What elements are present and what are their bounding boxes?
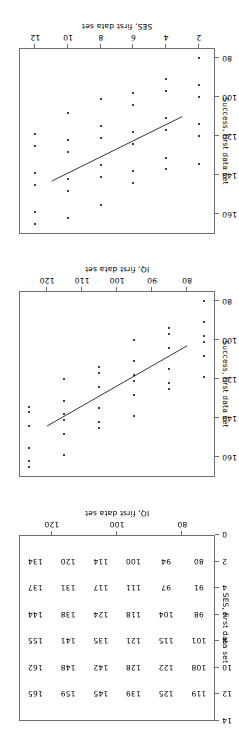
y-axis-tick-label: 14 <box>222 717 232 726</box>
scatter-point <box>198 84 200 86</box>
plot-panel-success-value-grid: 8094100114120134919711111713113798104118… <box>0 487 239 730</box>
grid-value-cell: 155 <box>28 637 43 646</box>
scatter-point <box>67 151 69 153</box>
grid-value-cell: 148 <box>61 663 76 672</box>
grid-value-cell: 145 <box>93 690 108 699</box>
x-axis-tick-label: 100 <box>110 276 125 285</box>
x-axis-tick-label: 2 <box>196 33 201 42</box>
scatter-point <box>67 139 69 141</box>
scatter-point <box>198 163 200 165</box>
y-axis-tick <box>215 339 219 340</box>
scatter-point <box>198 96 200 98</box>
y-axis-tick <box>215 213 219 214</box>
x-axis-tick <box>67 44 68 48</box>
grid-value-cell: 144 <box>28 610 43 619</box>
iq-success-x-axis-label: IQ, first data set <box>85 265 149 274</box>
y-axis-tick-label: 12 <box>222 690 232 699</box>
grid-value-cell: 121 <box>126 637 141 646</box>
x-axis-tick-label: 110 <box>75 276 90 285</box>
y-axis-tick <box>215 587 219 588</box>
value-grid-y-axis-label: SES, first data set <box>221 593 230 664</box>
grid-value-cell: 135 <box>93 637 108 646</box>
ses-success-rotation-wrapper: 2468101280100120140160 SES, first data s… <box>0 0 239 243</box>
x-axis-tick <box>116 287 117 291</box>
grid-value-cell: 104 <box>159 610 174 619</box>
scatter-point <box>100 98 102 100</box>
grid-value-cell: 118 <box>126 610 141 619</box>
y-axis-tick <box>215 96 219 97</box>
grid-value-cell: 97 <box>161 584 171 593</box>
x-axis-tick-label: 80 <box>182 276 192 285</box>
grid-value-cell: 125 <box>159 690 174 699</box>
x-axis-tick-label: 4 <box>164 33 169 42</box>
grid-value-cell: 142 <box>93 663 108 672</box>
y-axis-tick <box>215 417 219 418</box>
value-grid-x-axis-label: IQ, first data set <box>85 509 149 518</box>
ses-success-y-axis-label: Success, first data set <box>221 97 230 184</box>
grid-value-cell: 122 <box>159 663 174 672</box>
grid-value-cell: 91 <box>194 584 204 593</box>
grid-value-cell: 115 <box>159 637 174 646</box>
iq-success-rotation-wrapper: 809010011012080100120140160 IQ, first da… <box>0 243 239 486</box>
grid-value-cell: 117 <box>93 584 108 593</box>
grid-value-cell: 141 <box>61 637 76 646</box>
scatter-point <box>100 176 102 178</box>
grid-value-cell: 94 <box>161 557 171 566</box>
x-axis-tick <box>181 531 182 535</box>
x-axis-tick <box>165 44 166 48</box>
y-axis-tick <box>215 693 219 694</box>
x-axis-tick-label: 8 <box>98 33 103 42</box>
grid-value-cell: 137 <box>28 584 43 593</box>
x-axis-tick <box>151 287 152 291</box>
grid-value-cell: 114 <box>93 557 108 566</box>
y-axis-tick <box>215 561 219 562</box>
grid-value-cell: 80 <box>194 557 204 566</box>
scatter-point <box>100 204 102 206</box>
x-axis-tick-label: 10 <box>63 33 73 42</box>
plot-panel-iq-success: 809010011012080100120140160 IQ, first da… <box>0 243 239 486</box>
x-axis-tick-label: 80 <box>177 520 187 529</box>
grid-value-cell: 108 <box>191 663 206 672</box>
scatter-point <box>198 135 200 137</box>
y-axis-tick <box>215 456 219 457</box>
x-axis-tick-label: 12 <box>30 33 40 42</box>
grid-value-cell: 101 <box>191 637 206 646</box>
grid-value-cell: 119 <box>191 690 206 699</box>
scatter-point <box>100 137 102 139</box>
x-axis-tick <box>100 44 101 48</box>
x-axis-tick-label: 90 <box>147 276 157 285</box>
y-axis-tick <box>215 667 219 668</box>
grid-value-cell: 134 <box>28 557 43 566</box>
x-axis-tick <box>81 287 82 291</box>
x-axis-tick-label: 6 <box>131 33 136 42</box>
y-axis-tick-label: 160 <box>222 210 237 219</box>
grid-value-cell: 165 <box>28 690 43 699</box>
x-axis-tick-label: 100 <box>110 520 125 529</box>
y-axis-tick-label: 4 <box>222 584 227 593</box>
y-axis-tick-label: 160 <box>222 453 237 462</box>
x-axis-tick <box>198 44 199 48</box>
scatter-point <box>67 112 69 114</box>
scatter-point <box>198 57 200 59</box>
y-axis-tick <box>215 57 219 58</box>
y-axis-tick <box>215 640 219 641</box>
grid-value-cell: 131 <box>61 584 76 593</box>
x-axis-tick <box>186 287 187 291</box>
iq-success-y-axis-label: Success, first data set <box>221 340 230 427</box>
y-axis-tick <box>215 300 219 301</box>
grid-value-cell: 120 <box>61 557 76 566</box>
y-axis-tick <box>215 720 219 721</box>
y-axis-tick-label: 2 <box>222 557 227 566</box>
x-axis-tick <box>132 44 133 48</box>
y-axis-tick <box>215 174 219 175</box>
x-axis-tick-label: 120 <box>44 520 59 529</box>
y-axis-tick-label: 0 <box>222 531 227 540</box>
plot-panel-ses-success: 2468101280100120140160 SES, first data s… <box>0 0 239 243</box>
grid-value-cell: 128 <box>126 663 141 672</box>
grid-value-cell: 162 <box>28 663 43 672</box>
y-axis-tick <box>215 614 219 615</box>
x-axis-tick <box>116 531 117 535</box>
grid-value-cell: 159 <box>61 690 76 699</box>
y-axis-tick <box>215 378 219 379</box>
grid-value-cell: 124 <box>93 610 108 619</box>
